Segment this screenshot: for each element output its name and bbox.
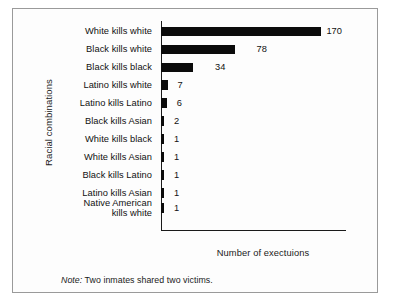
bar-track: 1 [157, 130, 365, 148]
bar-track: 7 [157, 76, 365, 94]
bar-value-label: 1 [174, 152, 179, 162]
bar-row: Black kills Asian2 [31, 112, 365, 130]
note-text: Two inmates shared two victims. [82, 275, 213, 285]
bar [161, 152, 164, 162]
bar-track: 34 [157, 58, 365, 76]
figure-frame: Racial combinations White kills white170… [12, 8, 378, 293]
bar-row: Native Americankills white1 [31, 199, 365, 217]
bar-value-label: 1 [174, 188, 179, 198]
bar-category-label: Black kills Latino [31, 170, 157, 181]
bar [161, 45, 235, 54]
bar-category-label: White kills black [31, 134, 157, 145]
bar [161, 27, 321, 36]
bar-value-label: 1 [174, 203, 179, 213]
bar [161, 170, 164, 180]
bar [161, 134, 164, 144]
bar-category-label: Latino kills Latino [31, 98, 157, 109]
bar-row: Black kills Latino1 [31, 166, 365, 184]
bar-row: White kills white170 [31, 22, 365, 40]
bar-category-label: Native Americankills white [31, 198, 157, 218]
bar-track: 78 [157, 40, 365, 58]
figure-note: Note: Two inmates shared two victims. [61, 275, 213, 285]
bar-track: 1 [157, 166, 365, 184]
bar-row: White kills Asian1 [31, 148, 365, 166]
bar-track: 6 [157, 94, 365, 112]
bar-row: Black kills white78 [31, 40, 365, 58]
plot-area: White kills white170Black kills white78B… [31, 21, 365, 233]
bar-value-label: 2 [174, 116, 179, 126]
bar-value-label: 170 [326, 26, 342, 36]
bar [161, 98, 167, 108]
bar-track: 1 [157, 199, 365, 217]
bar-value-label: 1 [174, 134, 179, 144]
bar-value-label: 34 [215, 62, 225, 72]
bar-track: 2 [157, 112, 365, 130]
bar-value-label: 78 [257, 44, 267, 54]
bar-row: Black kills black34 [31, 58, 365, 76]
note-label: Note: [61, 275, 82, 285]
bar [161, 188, 164, 198]
bar [161, 63, 193, 72]
bar-category-label: Latino kills Asian [31, 188, 157, 199]
x-axis-title: Number of exectuions [161, 248, 365, 258]
bar-category-label: Black kills white [31, 44, 157, 55]
x-axis-line [161, 230, 346, 231]
bar-category-label: White kills white [31, 26, 157, 37]
bar-category-label: White kills Asian [31, 152, 157, 163]
bar-row: Latino kills white7 [31, 76, 365, 94]
bar-value-label: 1 [174, 170, 179, 180]
bar-value-label: 7 [178, 80, 183, 90]
bar-value-label: 6 [177, 98, 182, 108]
bar-category-label: Latino kills white [31, 80, 157, 91]
bar [161, 116, 164, 126]
bar-track: 1 [157, 148, 365, 166]
bar-category-label: Black kills black [31, 62, 157, 73]
bar-track: 170 [157, 22, 365, 40]
bar-row: Latino kills Latino6 [31, 94, 365, 112]
bar-row: White kills black1 [31, 130, 365, 148]
bar-category-label: Black kills Asian [31, 116, 157, 127]
bar [161, 203, 164, 213]
bar [161, 80, 168, 90]
